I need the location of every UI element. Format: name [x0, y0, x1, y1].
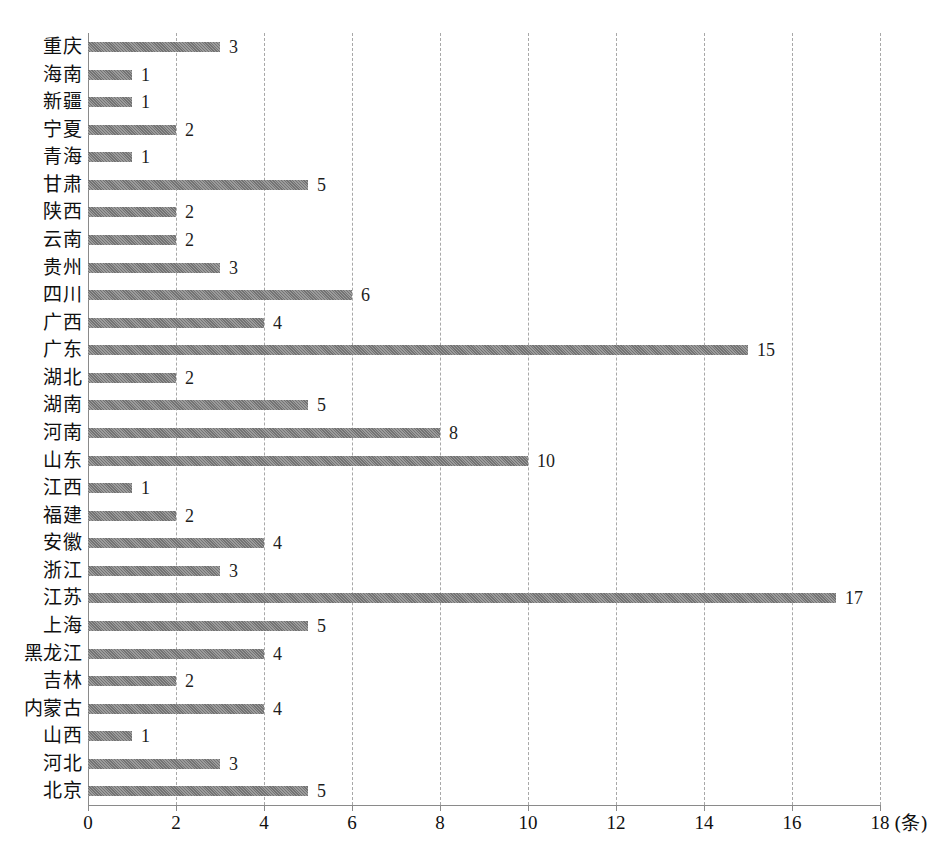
bar-value-label: 1: [141, 475, 150, 501]
bar-value-label: 8: [449, 420, 458, 446]
bar-安徽[interactable]: [88, 538, 264, 548]
category-label-山东: 山东: [0, 447, 82, 475]
category-label-广东: 广东: [0, 336, 82, 364]
bar-湖南[interactable]: [88, 400, 308, 410]
bar-湖北[interactable]: [88, 373, 176, 383]
bar-row: 1: [88, 61, 880, 89]
category-label-黑龙江: 黑龙江: [0, 640, 82, 668]
bar-内蒙古[interactable]: [88, 704, 264, 714]
bar-浙江[interactable]: [88, 566, 220, 576]
bar-宁夏[interactable]: [88, 125, 176, 135]
x-tick-label-4: 4: [259, 810, 269, 836]
category-label-北京: 北京: [0, 777, 82, 805]
bar-row: 2: [88, 226, 880, 254]
bar-江西[interactable]: [88, 483, 132, 493]
bar-value-label: 1: [141, 723, 150, 749]
bar-广东[interactable]: [88, 345, 748, 355]
category-label-海南: 海南: [0, 61, 82, 89]
bar-北京[interactable]: [88, 786, 308, 796]
category-label-青海: 青海: [0, 143, 82, 171]
bar-吉林[interactable]: [88, 676, 176, 686]
category-label-江西: 江西: [0, 474, 82, 502]
bar-value-label: 2: [185, 365, 194, 391]
bar-江苏[interactable]: [88, 593, 836, 603]
bar-row: 2: [88, 116, 880, 144]
bar-value-label: 17: [845, 585, 863, 611]
bar-value-label: 2: [185, 199, 194, 225]
bar-row: 2: [88, 364, 880, 392]
bar-上海[interactable]: [88, 621, 308, 631]
bar-黑龙江[interactable]: [88, 649, 264, 659]
category-label-湖南: 湖南: [0, 391, 82, 419]
category-label-四川: 四川: [0, 281, 82, 309]
x-tick-label-16: 16: [783, 810, 802, 836]
x-tick-label-6: 6: [347, 810, 357, 836]
gridline-18: [880, 33, 881, 805]
category-label-广西: 广西: [0, 309, 82, 337]
bar-value-label: 2: [185, 503, 194, 529]
category-label-山西: 山西: [0, 722, 82, 750]
bar-row: 2: [88, 198, 880, 226]
category-label-浙江: 浙江: [0, 557, 82, 585]
bar-value-label: 5: [317, 392, 326, 418]
category-axis-labels: 重庆海南新疆宁夏青海甘肃陕西云南贵州四川广西广东湖北湖南河南山东江西福建安徽浙江…: [0, 33, 82, 805]
category-label-新疆: 新疆: [0, 88, 82, 116]
bar-value-label: 3: [229, 558, 238, 584]
bar-row: 1: [88, 474, 880, 502]
bar-row: 5: [88, 391, 880, 419]
bar-row: 2: [88, 502, 880, 530]
bar-value-label: 3: [229, 255, 238, 281]
bar-青海[interactable]: [88, 152, 132, 162]
bar-value-label: 4: [273, 641, 282, 667]
bar-河南[interactable]: [88, 428, 440, 438]
category-label-福建: 福建: [0, 502, 82, 530]
bar-value-label: 1: [141, 144, 150, 170]
bar-row: 3: [88, 254, 880, 282]
bar-河北[interactable]: [88, 759, 220, 769]
x-tick-label-10: 10: [519, 810, 538, 836]
bar-重庆[interactable]: [88, 42, 220, 52]
bar-海南[interactable]: [88, 70, 132, 80]
bar-row: 2: [88, 667, 880, 695]
x-tick-label-2: 2: [171, 810, 181, 836]
bar-贵州[interactable]: [88, 263, 220, 273]
bar-福建[interactable]: [88, 511, 176, 521]
bar-陕西[interactable]: [88, 207, 176, 217]
bar-value-label: 15: [757, 337, 775, 363]
category-label-甘肃: 甘肃: [0, 171, 82, 199]
category-label-上海: 上海: [0, 612, 82, 640]
x-tick-label-14: 14: [695, 810, 714, 836]
category-label-贵州: 贵州: [0, 254, 82, 282]
x-axis-unit-label: (条): [894, 810, 928, 836]
bar-广西[interactable]: [88, 318, 264, 328]
category-label-湖北: 湖北: [0, 364, 82, 392]
bar-云南[interactable]: [88, 235, 176, 245]
bar-四川[interactable]: [88, 290, 352, 300]
bar-row: 1: [88, 722, 880, 750]
category-label-河南: 河南: [0, 419, 82, 447]
category-label-安徽: 安徽: [0, 529, 82, 557]
bar-山东[interactable]: [88, 456, 528, 466]
bar-value-label: 2: [185, 117, 194, 143]
bar-新疆[interactable]: [88, 97, 132, 107]
category-label-陕西: 陕西: [0, 198, 82, 226]
bar-row: 5: [88, 171, 880, 199]
bar-山西[interactable]: [88, 731, 132, 741]
category-label-河北: 河北: [0, 750, 82, 778]
bar-row: 5: [88, 612, 880, 640]
x-tick-label-8: 8: [435, 810, 445, 836]
bar-甘肃[interactable]: [88, 180, 308, 190]
bar-value-label: 5: [317, 778, 326, 804]
category-label-宁夏: 宁夏: [0, 116, 82, 144]
bar-value-label: 4: [273, 696, 282, 722]
bar-row: 3: [88, 750, 880, 778]
bar-value-label: 5: [317, 613, 326, 639]
bar-value-label: 1: [141, 62, 150, 88]
category-label-内蒙古: 内蒙古: [0, 695, 82, 723]
bar-row: 4: [88, 695, 880, 723]
bar-row: 8: [88, 419, 880, 447]
bar-row: 6: [88, 281, 880, 309]
bar-row: 10: [88, 447, 880, 475]
bar-row: 4: [88, 640, 880, 668]
